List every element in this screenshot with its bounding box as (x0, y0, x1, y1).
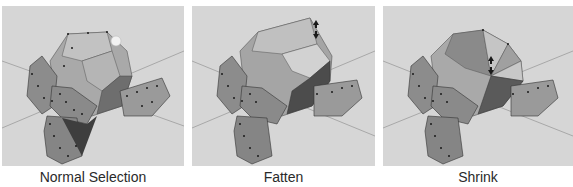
selection-handle-icon (111, 36, 121, 46)
viewport-normal-selection (2, 6, 184, 166)
monkey-mesh-fatten-icon (192, 6, 375, 166)
viewport-shrink (383, 6, 573, 166)
monkey-mesh-normal-icon (2, 6, 184, 166)
viewport-fatten (192, 6, 375, 166)
caption-fatten: Fatten (192, 168, 375, 187)
caption-normal-selection: Normal Selection (2, 168, 184, 187)
monkey-mesh-shrink-icon (383, 6, 573, 166)
caption-shrink: Shrink (383, 168, 573, 187)
